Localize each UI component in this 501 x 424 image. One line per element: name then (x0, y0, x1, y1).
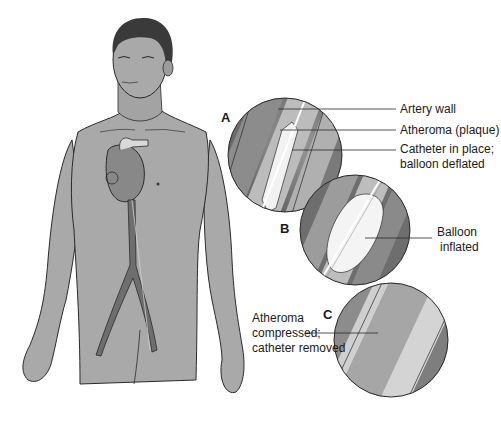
panel-label-b: B (280, 221, 289, 236)
angioplasty-diagram: A B C Artery wall Atheroma (plaque) Cath… (0, 0, 501, 424)
label-balloon-line2: inflated (440, 240, 479, 254)
label-compressed-line1: Atheroma (252, 311, 304, 325)
label-atheroma: Atheroma (plaque) (400, 123, 499, 137)
label-balloon-line1: Balloon (437, 225, 477, 239)
label-catheter-line2: balloon deflated (400, 157, 485, 171)
label-compressed-line2: compressed; (252, 326, 321, 340)
label-catheter-line1: Catheter in place; (400, 142, 494, 156)
human-figure (23, 18, 244, 393)
panel-label-a: A (221, 110, 230, 125)
label-artery-wall: Artery wall (400, 102, 456, 116)
panel-label-c: C (323, 307, 332, 322)
diagram-illustration (0, 0, 501, 424)
label-compressed-line3: catheter removed (252, 341, 345, 355)
